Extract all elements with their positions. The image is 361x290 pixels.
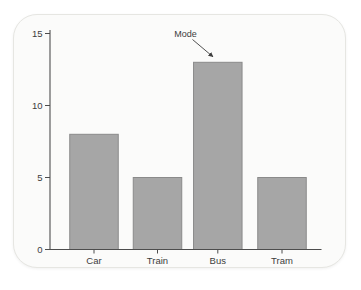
y-tick-label-10: 10 [32, 100, 43, 111]
x-tick-label-car: Car [86, 255, 101, 266]
annotation-arrow [193, 40, 214, 57]
bar-train [133, 178, 182, 250]
x-tick-label-tram: Tram [271, 255, 293, 266]
x-tick-label-train: Train [147, 255, 168, 266]
bar-chart: 051015CarTrainBusTramMode [0, 0, 361, 290]
bar-tram [258, 178, 307, 250]
bar-car [70, 134, 119, 249]
x-tick-label-bus: Bus [210, 255, 227, 266]
y-tick-label-15: 15 [32, 28, 43, 39]
y-tick-label-0: 0 [37, 244, 42, 255]
bar-bus [194, 62, 243, 249]
y-tick-label-5: 5 [37, 172, 42, 183]
annotation-label: Mode [174, 29, 197, 39]
